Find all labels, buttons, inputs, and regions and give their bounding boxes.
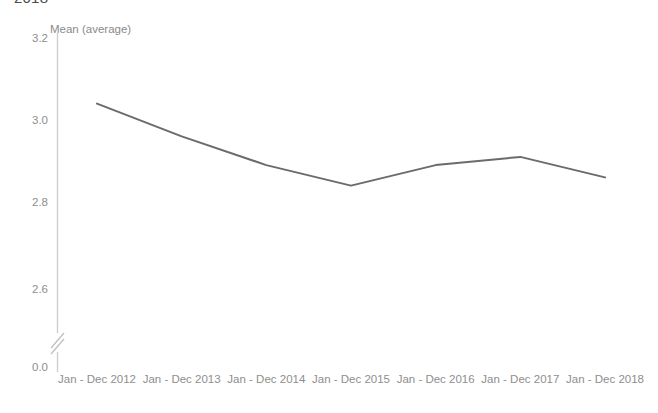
x-tick-label: Jan - Dec 2014: [227, 373, 305, 385]
x-tick-label: Jan - Dec 2018: [566, 373, 644, 385]
axis-break-icon: [51, 333, 64, 354]
x-tick-label: Jan - Dec 2015: [312, 373, 390, 385]
x-tick-label: Jan - Dec 2017: [481, 373, 559, 385]
plot-area: [0, 0, 658, 413]
data-series-line: [97, 104, 605, 186]
line-chart: 2018 Mean (average) 3.2 3.0 2.8 2.6 0.0 …: [0, 0, 658, 413]
x-tick-label: Jan - Dec 2013: [143, 373, 221, 385]
x-tick-label: Jan - Dec 2012: [58, 373, 136, 385]
x-tick-label: Jan - Dec 2016: [397, 373, 475, 385]
